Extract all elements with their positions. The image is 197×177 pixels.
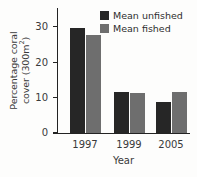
y-tick-label-30: 30: [35, 20, 48, 31]
y-tick-label-0: 0: [42, 127, 48, 138]
legend-label-unfished: Mean unfished: [113, 10, 183, 21]
x-tick-label-1997: 1997: [72, 139, 97, 150]
y-tick-label-20: 20: [35, 56, 48, 67]
bar-1997-unfished: [70, 28, 85, 133]
legend-item-fished[interactable]: Mean fished: [100, 23, 183, 34]
chart-legend: Mean unfishedMean fished: [100, 10, 183, 36]
y-axis-label-paren: ): [19, 36, 30, 40]
x-axis-line: [57, 133, 190, 134]
y-axis-label-superscript: 2: [18, 40, 26, 44]
bar-1999-unfished: [114, 92, 129, 133]
legend-swatch-fished-icon: [100, 24, 109, 33]
bar-1999-fished: [130, 93, 145, 133]
legend-swatch-unfished-icon: [100, 11, 109, 20]
bar-2005-fished: [172, 92, 187, 133]
x-axis-label: Year: [57, 155, 190, 166]
y-tick-label-10: 10: [35, 92, 48, 103]
x-tick-label-2005: 2005: [158, 139, 183, 150]
bar-chart-figure: Percentage coral cover (300m2) 0 10 20 3…: [0, 0, 197, 177]
legend-label-fished: Mean fished: [113, 23, 171, 34]
y-axis-label: Percentage coral cover (300m2): [0, 0, 38, 140]
y-axis-label-line2: cover (300m: [19, 44, 30, 103]
legend-item-unfished[interactable]: Mean unfished: [100, 10, 183, 21]
bar-2005-unfished: [156, 102, 171, 133]
bar-1997-fished: [86, 35, 101, 133]
x-tick-label-1999: 1999: [116, 139, 141, 150]
